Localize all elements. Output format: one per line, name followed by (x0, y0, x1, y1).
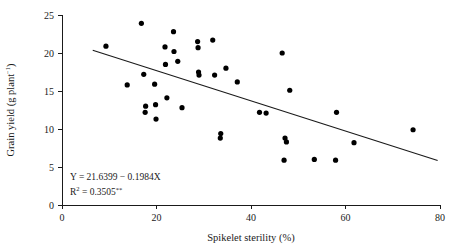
data-point (284, 139, 289, 144)
scatter-plot-figure: 0510152025 020406080 Spikelet sterility … (0, 0, 467, 246)
y-tick-label: 5 (49, 162, 54, 173)
y-axis-title-superscript: −1 (4, 67, 11, 74)
data-point (153, 117, 158, 122)
data-point (196, 72, 201, 77)
data-point (264, 110, 269, 115)
x-tick-label: 20 (152, 212, 162, 223)
y-axis-title-close: ) (5, 63, 17, 67)
data-point (223, 66, 228, 71)
data-point (152, 82, 157, 87)
x-tick-label: 0 (60, 212, 65, 223)
data-point (162, 44, 167, 49)
data-point (410, 127, 415, 132)
data-point (218, 136, 223, 141)
r-squared-text: R2 = 0.3505** (70, 185, 122, 197)
y-axis-title-base: Grain yield (g plant (5, 74, 17, 157)
data-point (164, 95, 169, 100)
y-tick-group: 0510152025 (44, 10, 62, 211)
x-axis: 020406080 (60, 205, 446, 223)
data-point (287, 88, 292, 93)
data-point (125, 82, 130, 87)
regression-equation-text: Y = 21.6399 − 0.1984X (70, 172, 161, 182)
x-axis-title: Spikelet sterility (%) (207, 232, 295, 244)
x-tick-label: 40 (246, 212, 256, 223)
data-point (312, 157, 317, 162)
data-point (143, 110, 148, 115)
data-point (163, 62, 168, 67)
data-point (153, 102, 158, 107)
y-axis-title: Grain yield (g plant−1) (4, 63, 17, 156)
data-point (281, 158, 286, 163)
data-point (212, 72, 217, 77)
data-point (218, 131, 223, 136)
data-point (351, 140, 356, 145)
data-point (334, 110, 339, 115)
data-point (103, 44, 108, 49)
data-point (143, 104, 148, 109)
x-tick-label: 60 (341, 212, 351, 223)
data-point (179, 105, 184, 110)
data-point (141, 72, 146, 77)
x-tick-label: 80 (435, 212, 445, 223)
data-point (235, 79, 240, 84)
y-tick-label: 0 (49, 200, 54, 211)
y-tick-label: 20 (44, 48, 54, 59)
data-point (171, 49, 176, 54)
y-tick-label: 10 (44, 124, 54, 135)
data-point (195, 39, 200, 44)
data-point (333, 158, 338, 163)
x-tick-group: 020406080 (60, 205, 446, 223)
y-tick-label: 15 (44, 86, 54, 97)
r-squared-significance: ** (116, 186, 123, 193)
data-point (171, 29, 176, 34)
data-point (139, 21, 144, 26)
data-point (257, 110, 262, 115)
y-axis: 0510152025 (44, 10, 62, 211)
data-point (175, 59, 180, 64)
data-point (210, 37, 215, 42)
data-point (195, 45, 200, 50)
plot-canvas: 0510152025 020406080 Spikelet sterility … (0, 0, 467, 246)
y-tick-label: 25 (44, 10, 54, 21)
r-squared-value: = 0.3505 (80, 187, 116, 197)
data-point (280, 50, 285, 55)
data-points-group (103, 21, 415, 163)
